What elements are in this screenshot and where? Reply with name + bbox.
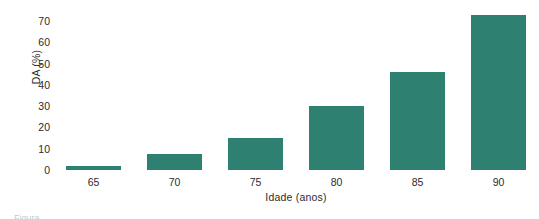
y-tick-label: 50 — [22, 59, 50, 69]
x-axis-baseline — [53, 170, 539, 171]
y-tick-label: 30 — [22, 101, 50, 111]
bar — [147, 154, 202, 170]
x-tick-label: 90 — [469, 176, 529, 188]
y-axis-tick-labels: 010203040506070 — [22, 0, 50, 219]
bar-chart-figure: DA (%) 010203040506070 Idade (anos) 6570… — [0, 0, 539, 219]
plot-area: Idade (anos) 657075808590 — [53, 0, 539, 219]
figure-caption-cropped: Figura — [14, 213, 134, 219]
bar — [66, 166, 121, 170]
x-tick-label: 80 — [307, 176, 367, 188]
x-axis-title: Idade (anos) — [53, 191, 539, 203]
bar — [228, 138, 283, 170]
x-tick-label: 70 — [145, 176, 205, 188]
y-tick-label: 60 — [22, 37, 50, 47]
x-tick-label: 75 — [226, 176, 286, 188]
y-tick-label: 70 — [22, 16, 50, 26]
bar — [309, 106, 364, 170]
x-tick-label: 85 — [388, 176, 448, 188]
bar — [471, 15, 526, 170]
bar — [390, 72, 445, 170]
y-tick-label: 40 — [22, 80, 50, 90]
y-tick-label: 10 — [22, 144, 50, 154]
y-tick-label: 0 — [22, 165, 50, 175]
x-tick-label: 65 — [64, 176, 124, 188]
y-tick-label: 20 — [22, 122, 50, 132]
